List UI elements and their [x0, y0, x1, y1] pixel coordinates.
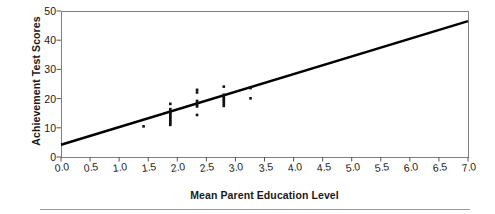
data-point	[223, 85, 226, 88]
data-point	[196, 89, 199, 92]
data-point	[169, 124, 172, 127]
data-point	[196, 91, 199, 94]
data-point	[142, 125, 145, 128]
data-point	[223, 105, 226, 108]
data-point	[196, 114, 199, 117]
data-point	[249, 87, 252, 90]
scatter-plot-figure: Achievement Test Scores 01020304050 0.00…	[0, 0, 495, 214]
data-point	[196, 105, 199, 108]
x-axis-title: Mean Parent Education Level	[61, 189, 468, 201]
regression-line	[61, 21, 468, 145]
plot-frame	[62, 12, 469, 158]
data-point	[249, 97, 252, 100]
data-point	[169, 103, 172, 106]
axis-tick-marks	[57, 11, 469, 162]
plot-frame-rect	[62, 12, 469, 158]
plot-area	[0, 0, 495, 214]
regression-line-segment	[61, 21, 468, 145]
footer-rule	[40, 209, 470, 210]
